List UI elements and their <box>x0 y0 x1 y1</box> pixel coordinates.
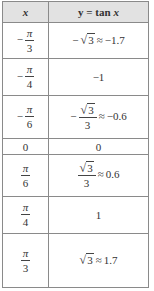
numerator: π <box>21 248 31 261</box>
y-cell: −√33≈−0.6 <box>49 96 149 139</box>
decimal-value: 0.6 <box>106 168 120 180</box>
approx-symbol: ≈ <box>97 34 103 46</box>
x-cell: 0 <box>3 139 49 155</box>
approx-symbol: ≈ <box>98 168 104 180</box>
denominator: 3 <box>84 176 90 189</box>
decimal-value: −1.7 <box>105 34 125 46</box>
sqrt-expression: √3 <box>81 104 95 116</box>
denominator: 4 <box>23 215 29 228</box>
table-row: 0 0 <box>3 139 149 155</box>
decimal-value: −0.6 <box>107 110 127 122</box>
denominator: 4 <box>27 77 33 90</box>
value: −1 <box>93 71 105 83</box>
radicand: 3 <box>87 103 95 116</box>
radicand: 3 <box>87 33 95 46</box>
numerator: π <box>21 202 31 215</box>
y-cell: 0 <box>49 139 149 155</box>
header-y-var: x <box>113 6 119 18</box>
radicand: 3 <box>86 161 94 174</box>
value: 0 <box>96 141 102 153</box>
header-row: x y = tan x <box>3 2 149 23</box>
decimal-value: 1.7 <box>104 254 118 266</box>
y-cell: −√3≈−1.7 <box>49 23 149 59</box>
y-cell: √3≈1.7 <box>49 234 149 288</box>
header-y: y = tan x <box>49 2 149 23</box>
header-x-label: x <box>23 6 29 18</box>
fraction: π3 <box>21 248 31 274</box>
fraction: π6 <box>21 163 31 189</box>
y-cell: 1 <box>49 197 149 234</box>
value: 1 <box>96 209 102 221</box>
numerator: π <box>25 64 35 77</box>
numerator: π <box>21 163 31 176</box>
y-cell: √33≈0.6 <box>49 155 149 197</box>
denominator: 3 <box>27 41 33 54</box>
sqrt-expression: √3 <box>81 33 95 48</box>
fraction: √33 <box>78 162 96 189</box>
table-row: −π3 −√3≈−1.7 <box>3 23 149 59</box>
header-x: x <box>3 2 49 23</box>
table-row: −π6 −√33≈−0.6 <box>3 96 149 139</box>
numerator: π <box>25 104 35 117</box>
x-cell: −π6 <box>3 96 49 139</box>
sqrt-expression: √3 <box>80 162 94 174</box>
table-row: π4 1 <box>3 197 149 234</box>
x-cell: π6 <box>3 155 49 197</box>
denominator: 6 <box>23 176 29 189</box>
denominator: 6 <box>27 117 33 130</box>
sign: − <box>72 34 78 46</box>
sign: − <box>70 110 76 122</box>
table-row: π6 √33≈0.6 <box>3 155 149 197</box>
x-cell: π4 <box>3 197 49 234</box>
numerator: π <box>25 28 35 41</box>
x-cell: −π4 <box>3 59 49 96</box>
header-y-label: y = tan <box>78 6 113 18</box>
numerator: √3 <box>79 104 97 118</box>
approx-symbol: ≈ <box>99 110 105 122</box>
fraction: π4 <box>21 202 31 228</box>
fraction: π3 <box>25 28 35 54</box>
fraction: π4 <box>25 64 35 90</box>
tan-values-table: x y = tan x −π3 −√3≈−1.7 −π4 −1 −π6 <box>2 1 149 288</box>
table-row: π3 √3≈1.7 <box>3 234 149 288</box>
sign: − <box>17 33 23 45</box>
radicand: 3 <box>86 253 94 266</box>
table-row: −π4 −1 <box>3 59 149 96</box>
denominator: 3 <box>85 118 91 131</box>
value: 0 <box>23 141 29 153</box>
approx-symbol: ≈ <box>96 254 102 266</box>
fraction: √33 <box>79 104 97 131</box>
numerator: √3 <box>78 162 96 176</box>
x-cell: −π3 <box>3 23 49 59</box>
fraction: π6 <box>25 104 35 130</box>
x-cell: π3 <box>3 234 49 288</box>
y-cell: −1 <box>49 59 149 96</box>
sqrt-expression: √3 <box>80 253 94 268</box>
denominator: 3 <box>23 261 29 274</box>
sign: − <box>17 110 23 122</box>
sign: − <box>17 70 23 82</box>
